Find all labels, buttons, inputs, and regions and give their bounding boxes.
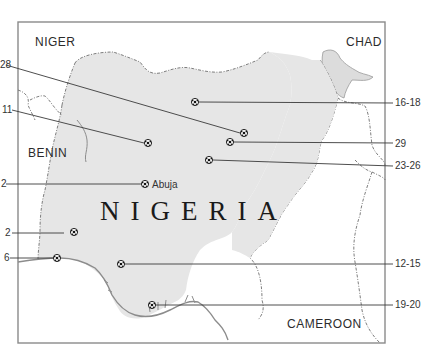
callout-11: 11 (2, 104, 13, 115)
football-icon[interactable] (226, 138, 233, 145)
label-nigeria: NIGERIA (100, 196, 288, 226)
football-icon[interactable] (117, 260, 124, 267)
callout-29: 29 (395, 138, 407, 149)
callout-19-20: 19-20 (395, 299, 421, 310)
football-icon[interactable] (144, 139, 151, 146)
callout-2: 2 (5, 227, 11, 238)
football-icon[interactable] (205, 156, 212, 163)
football-icon[interactable] (53, 254, 60, 261)
callout-28: 28 (0, 59, 12, 70)
football-icon[interactable] (70, 228, 77, 235)
callout-2-abuja: 2 (1, 178, 7, 189)
label-benin: BENIN (28, 146, 67, 160)
callout-12-15: 12-15 (395, 258, 421, 269)
football-icon[interactable] (240, 129, 247, 136)
label-cameroon: CAMEROON (287, 317, 362, 331)
label-chad: CHAD (346, 35, 382, 49)
callout-23-26: 23-26 (395, 160, 421, 171)
label-niger: NIGER (35, 35, 76, 49)
football-icon[interactable] (141, 180, 148, 187)
callout-6: 6 (4, 252, 10, 263)
football-icon[interactable] (191, 98, 198, 105)
football-icon[interactable] (148, 301, 155, 308)
label-abuja: Abuja (152, 179, 178, 190)
callout-16-18: 16-18 (395, 97, 421, 108)
nigeria-map: NIGER CHAD BENIN CAMEROON NIGERIA Abuja … (0, 0, 437, 363)
